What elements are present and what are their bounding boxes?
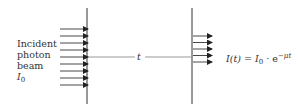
transmitted-arrows [193, 36, 212, 62]
incident-label-line-1: Incident [17, 38, 57, 49]
equation-equals: = [244, 53, 252, 64]
incident-label-line-2: photon [17, 49, 57, 60]
equation-i0-subscript: 0 [259, 58, 263, 66]
incident-arrows [60, 29, 88, 85]
incident-label-line-3: beam [17, 60, 57, 71]
attenuation-equation: I(t) = I0 · e−μt [226, 51, 291, 68]
equation-exponent: −μt [278, 52, 291, 60]
incident-intensity-subscript: 0 [21, 76, 25, 84]
equation-lhs: I(t) [226, 53, 241, 64]
thickness-label: t [137, 51, 141, 62]
incident-intensity-label: I0 [17, 71, 57, 86]
equation-dot: · [266, 53, 269, 64]
incident-label: Incident photon beam I0 [17, 38, 57, 86]
attenuation-diagram: Incident photon beam I0 t I(t) = I0 · e−… [0, 0, 298, 112]
